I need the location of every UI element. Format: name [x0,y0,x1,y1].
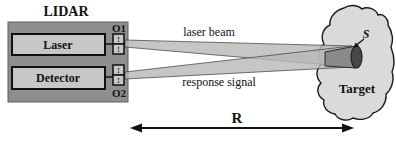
diagram-title: LIDAR [43,4,89,19]
detector-label: Detector [36,71,81,85]
lidar-schematic-diagram: Laser Detector O1 ↕ ↕ ↕ ↕ O2 LIDAR laser… [0,0,396,142]
lens-icon: ↕ [116,34,121,44]
lens-icon: ↕ [116,65,121,75]
target-label: Target [339,81,376,96]
range-arrowhead-left [130,124,142,133]
optic1-label: O1 [112,22,126,34]
target-spot [351,46,362,68]
diagram-canvas: Laser Detector O1 ↕ ↕ ↕ ↕ O2 LIDAR laser… [0,0,396,142]
lens-icon: ↕ [116,75,121,85]
lens-icon: ↕ [116,44,121,54]
range-arrowhead-right [342,124,354,133]
range-label: R [232,110,243,126]
laser-label: Laser [43,38,73,52]
response-signal-label: response signal [182,75,256,89]
optic2-label: O2 [112,87,127,99]
laser-beam-label: laser beam [183,25,235,39]
